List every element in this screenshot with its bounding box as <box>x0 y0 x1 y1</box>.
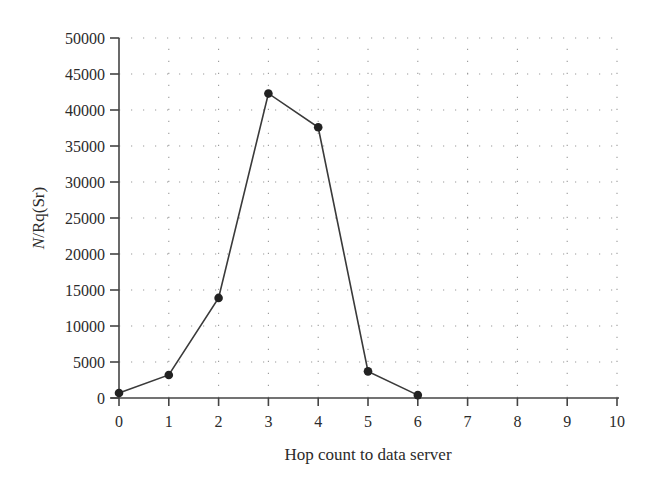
data-point-marker <box>364 367 373 376</box>
y-tick-label: 10000 <box>65 318 105 335</box>
y-tick-label: 20000 <box>65 246 105 263</box>
y-tick-label: 40000 <box>65 102 105 119</box>
line-chart: 0500010000150002000025000300003500040000… <box>0 0 652 486</box>
y-tick-label: 35000 <box>65 138 105 155</box>
data-point-marker <box>414 391 423 400</box>
data-series <box>115 89 422 399</box>
x-tick-label: 1 <box>165 413 173 430</box>
x-tick-label: 6 <box>414 413 422 430</box>
y-tick-label: 0 <box>97 390 105 407</box>
x-tick-label: 0 <box>115 413 123 430</box>
x-tick-label: 2 <box>215 413 223 430</box>
y-tick-label: 15000 <box>65 282 105 299</box>
x-axis-title: Hop count to data server <box>284 445 451 464</box>
y-tick-label: 50000 <box>65 30 105 47</box>
y-axis-ticks: 0500010000150002000025000300003500040000… <box>65 30 119 407</box>
data-point-marker <box>314 123 323 132</box>
x-tick-label: 3 <box>264 413 272 430</box>
y-tick-label: 45000 <box>65 66 105 83</box>
y-tick-label: 30000 <box>65 174 105 191</box>
data-point-marker <box>165 371 174 380</box>
x-axis-ticks: 012345678910 <box>115 398 625 430</box>
x-tick-label: 10 <box>609 413 625 430</box>
y-tick-label: 5000 <box>73 354 105 371</box>
y-axis-title-rest: /Rq(Sr) <box>29 187 48 238</box>
x-tick-label: 8 <box>513 413 521 430</box>
axes <box>111 38 619 398</box>
y-axis-title: N/Rq(Sr) <box>29 187 48 250</box>
x-tick-label: 9 <box>563 413 571 430</box>
x-tick-label: 5 <box>364 413 372 430</box>
y-tick-label: 25000 <box>65 210 105 227</box>
grid-lines <box>119 38 617 398</box>
data-point-marker <box>264 89 273 98</box>
data-point-marker <box>214 294 223 303</box>
x-tick-label: 7 <box>464 413 472 430</box>
data-point-marker <box>115 389 124 398</box>
x-tick-label: 4 <box>314 413 322 430</box>
